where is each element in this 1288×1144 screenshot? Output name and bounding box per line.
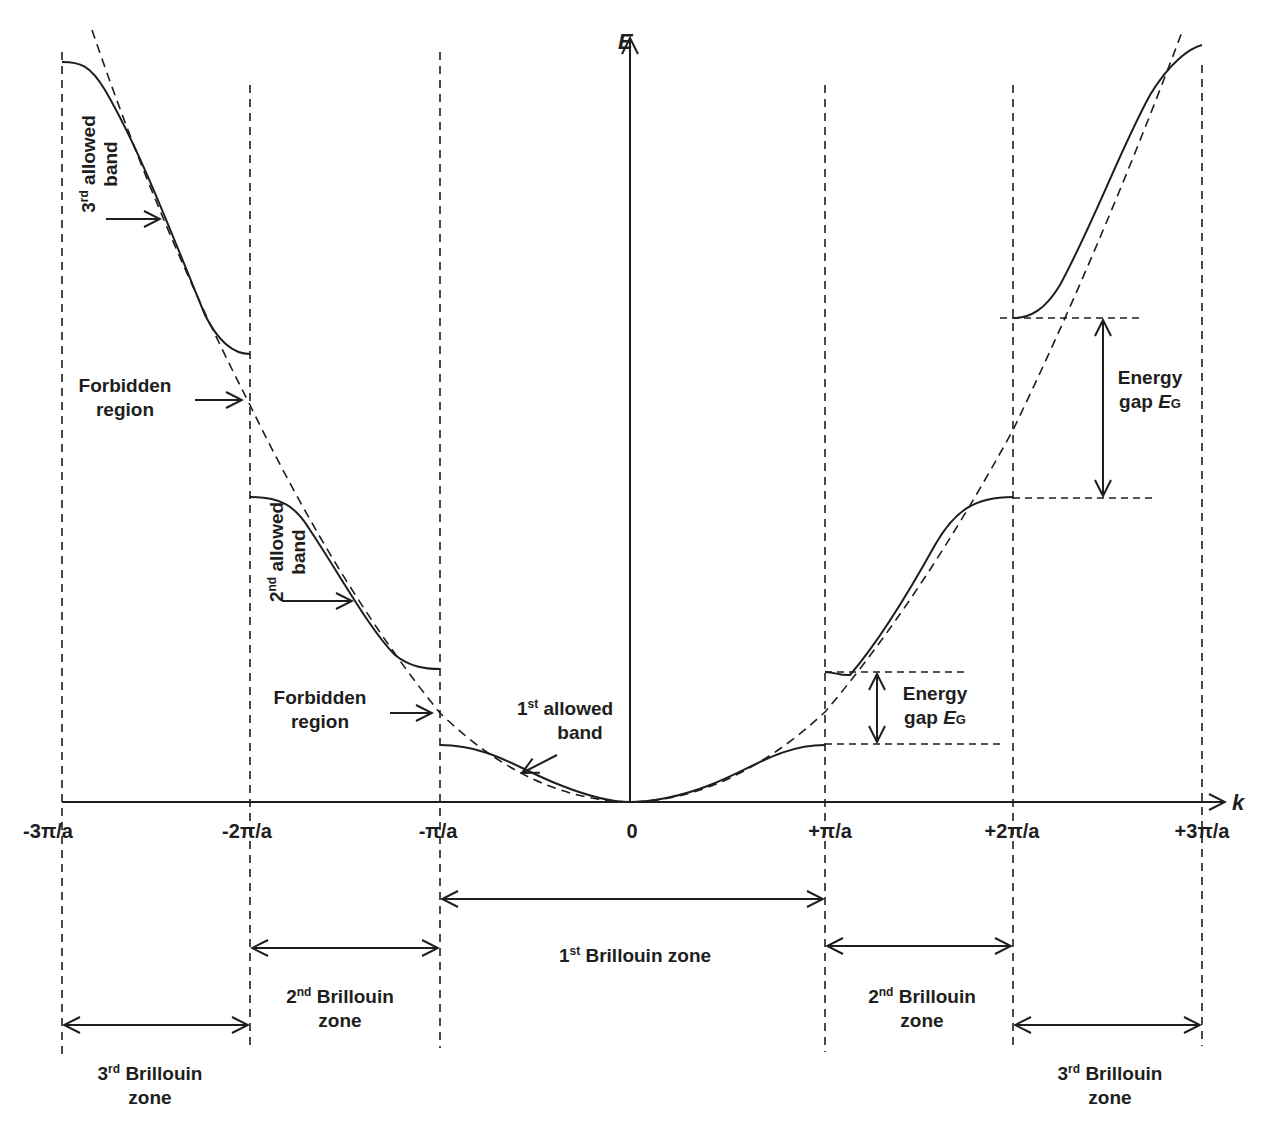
e-axis-label: E — [618, 30, 633, 54]
k-axis-label: k — [1232, 791, 1244, 815]
first-zone-label: 1st Brillouin zone — [540, 944, 730, 968]
forbidden-lower-label: Forbidden region — [265, 686, 375, 734]
axes — [62, 38, 1225, 802]
second-band-label: 2nd allowed band — [266, 492, 310, 612]
zone-boundaries — [62, 52, 1202, 1058]
band-diagram-canvas — [0, 0, 1288, 1144]
second-band-right-curve — [825, 497, 1013, 675]
third-band-label: 3rd allowed band — [78, 104, 122, 224]
gap-arrows — [877, 320, 1103, 742]
small-energy-gap-label: Energy gap EG — [895, 682, 975, 732]
second-zone-right-label: 2nd Brillouin zone — [852, 985, 992, 1033]
tick-neg1: -π/a — [419, 820, 458, 843]
second-zone-left-label: 2nd Brillouin zone — [270, 985, 410, 1033]
gap-guides — [825, 318, 1156, 744]
energy-bands — [62, 45, 1202, 802]
tick-pos1: +π/a — [808, 820, 852, 843]
free-electron-parabola — [92, 30, 1182, 802]
first-band-pointer — [522, 755, 557, 773]
forbidden-upper-label: Forbidden region — [70, 374, 180, 422]
third-zone-left-label: 3rd Brillouin zone — [80, 1062, 220, 1110]
first-band-curve — [440, 745, 825, 802]
tick-zero: 0 — [626, 820, 637, 843]
tick-neg2: -2π/a — [222, 820, 272, 843]
tick-neg3: -3π/a — [23, 820, 73, 843]
large-energy-gap-label: Energy gap EG — [1110, 366, 1190, 416]
first-band-label: 1st allowed band — [490, 697, 640, 745]
third-zone-right-label: 3rd Brillouin zone — [1040, 1062, 1180, 1110]
tick-pos3: +3π/a — [1175, 820, 1230, 843]
tick-pos2: +2π/a — [985, 820, 1040, 843]
third-band-right-curve — [1013, 45, 1202, 318]
